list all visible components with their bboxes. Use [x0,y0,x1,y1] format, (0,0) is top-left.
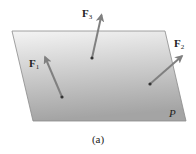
force-f2-point [148,82,151,85]
force-diagram: F1 F3 F2 P (a) [0,0,196,154]
plane-label: P [168,107,176,119]
force-f3-point [90,56,93,59]
force-f3-label: F3 [82,7,93,21]
force-f2-label: F2 [174,37,185,51]
force-f1-point [60,95,63,98]
figure-caption: (a) [92,133,105,146]
